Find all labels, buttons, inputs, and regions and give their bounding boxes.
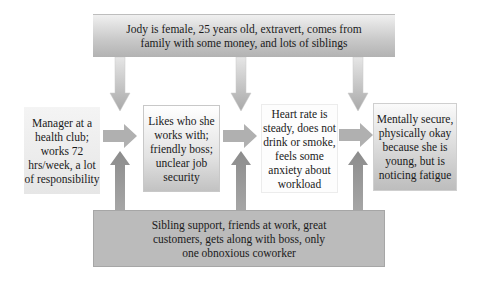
right-arrow-icon xyxy=(339,122,374,148)
down-arrow-icon xyxy=(230,57,252,112)
stage-box-job-demands: Manager at a health club; works 72 hrs/w… xyxy=(24,107,100,194)
stage-1-text: Manager at a health club; works 72 hrs/w… xyxy=(24,116,100,186)
up-arrow-icon xyxy=(109,151,131,211)
down-arrow-icon xyxy=(109,57,131,112)
stage-3-text: Heart rate is steady, does not drink or … xyxy=(262,107,337,191)
support-resources-box: Sibling support, friends at work, great … xyxy=(93,210,385,267)
right-arrow-icon xyxy=(103,123,138,149)
stage-box-job-perception: Likes who she works with; friendly boss;… xyxy=(143,105,220,192)
demographics-box: Jody is female, 25 years old, extravert,… xyxy=(93,14,395,57)
up-arrow-icon xyxy=(347,151,369,211)
right-arrow-icon xyxy=(223,123,258,149)
stage-box-physiological-response: Heart rate is steady, does not drink or … xyxy=(261,104,338,193)
down-arrow-icon xyxy=(347,57,369,112)
stage-2-text: Likes who she works with; friendly boss;… xyxy=(144,114,219,184)
stage-4-text: Mentally secure, physically okay because… xyxy=(374,112,456,182)
stage-box-outcome: Mentally secure, physically okay because… xyxy=(373,103,457,191)
demographics-text: Jody is female, 25 years old, extravert,… xyxy=(113,22,375,50)
support-resources-text: Sibling support, friends at work, great … xyxy=(144,218,334,260)
up-arrow-icon xyxy=(230,151,252,211)
